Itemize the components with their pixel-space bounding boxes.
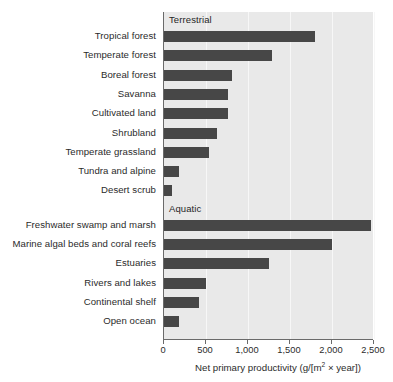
x-tick-mark: [163, 340, 164, 344]
category-label: Open ocean: [103, 315, 156, 326]
x-tick-label: 2,500: [361, 345, 384, 355]
bar: [164, 185, 172, 196]
category-label: Desert scrub: [101, 184, 156, 195]
gridline-1,500: [290, 12, 291, 339]
x-tick-mark: [205, 340, 206, 344]
bar: [164, 166, 179, 177]
x-tick-mark: [373, 340, 374, 344]
x-tick-label: 1,500: [277, 345, 300, 355]
x-tick-label: 2,000: [319, 345, 342, 355]
bar: [164, 128, 217, 139]
bar: [164, 297, 199, 308]
category-label: Boreal forest: [101, 69, 156, 80]
category-label: Estuaries: [116, 257, 156, 268]
x-axis-title: Net primary productivity (g/[m2 × year]): [163, 361, 393, 373]
x-tick-label: 0: [160, 345, 165, 355]
category-label: Temperate grassland: [65, 146, 156, 157]
category-label: Temperate forest: [83, 49, 156, 60]
bar: [164, 220, 371, 231]
category-label: Tundra and alpine: [78, 165, 156, 176]
bar: [164, 89, 228, 100]
category-label: Marine algal beds and coral reefs: [12, 238, 156, 249]
category-label: Tropical forest: [95, 30, 156, 41]
bar: [164, 258, 269, 269]
category-label: Cultivated land: [92, 107, 156, 118]
bar: [164, 147, 209, 158]
gridline-2,500: [374, 12, 375, 339]
bar: [164, 50, 272, 61]
bar: [164, 239, 332, 250]
category-label: Shrubland: [112, 127, 156, 138]
bar: [164, 70, 232, 81]
bar: [164, 316, 179, 327]
x-tick-mark: [331, 340, 332, 344]
bar: [164, 278, 206, 289]
category-label: Continental shelf: [84, 296, 156, 307]
x-tick-mark: [247, 340, 248, 344]
category-label: Rivers and lakes: [84, 277, 156, 288]
x-axis-title-prefix: Net primary productivity (g/[m: [195, 362, 322, 373]
category-axis-labels: Tropical forestTemperate forestBoreal fo…: [0, 12, 160, 340]
x-tick-label: 1,000: [235, 345, 258, 355]
bar: [164, 108, 228, 119]
net-primary-productivity-bar-chart: TerrestrialAquatic Tropical forestTemper…: [0, 0, 393, 382]
x-axis-title-suffix: × year]): [325, 362, 361, 373]
category-label: Freshwater swamp and marsh: [26, 219, 156, 230]
group-caption-terrestrial: Terrestrial: [169, 14, 212, 25]
x-tick-label: 500: [197, 345, 213, 355]
bar: [164, 31, 315, 42]
x-axis: 05001,0001,5002,0002,500: [163, 340, 373, 360]
x-tick-mark: [289, 340, 290, 344]
category-label: Savanna: [118, 88, 156, 99]
group-caption-aquatic: Aquatic: [169, 203, 201, 214]
gridline-2,000: [332, 12, 333, 339]
plot-area: TerrestrialAquatic: [163, 12, 373, 340]
